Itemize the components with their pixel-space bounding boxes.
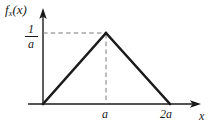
- y-axis-label: fx(x): [5, 3, 27, 18]
- y-axis-tick-label-one-over-a: 1 a: [23, 23, 39, 50]
- fraction-numerator: 1: [23, 23, 39, 36]
- fraction-denominator: a: [23, 38, 39, 51]
- x-axis-tick-label-a: a: [102, 108, 108, 120]
- pdf-falling-segment: [106, 33, 170, 104]
- plot-canvas: [0, 0, 218, 131]
- triangular-pdf-figure: fx(x) 1 a a 2a x: [0, 0, 218, 131]
- y-axis-label-argument: (x): [12, 2, 26, 17]
- x-axis-tick-label-2a: 2a: [160, 108, 172, 120]
- x-axis-label: x: [199, 110, 204, 122]
- pdf-rising-segment: [43, 33, 106, 104]
